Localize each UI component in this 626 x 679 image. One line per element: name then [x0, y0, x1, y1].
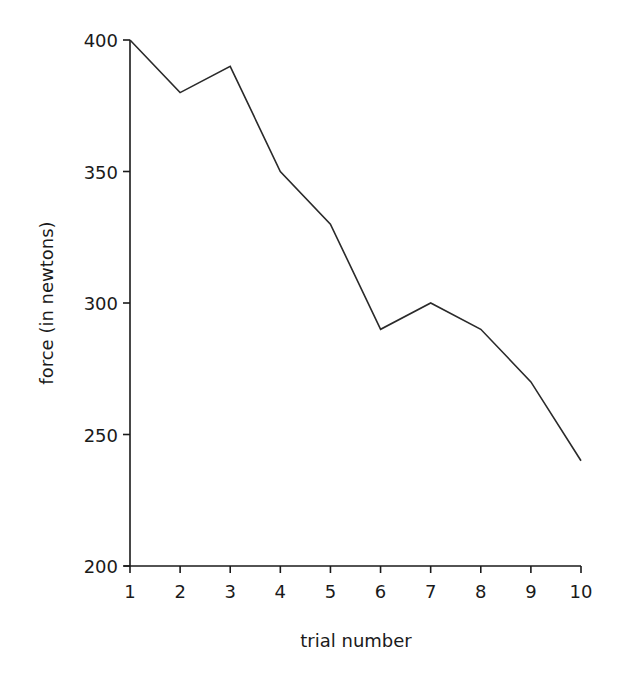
x-tick-label: 1 [124, 581, 135, 602]
force-series-line [130, 40, 581, 461]
x-axis-ticks: 12345678910 [124, 566, 592, 602]
x-tick-label: 7 [425, 581, 436, 602]
x-tick-label: 4 [275, 581, 286, 602]
x-tick-label: 6 [375, 581, 386, 602]
axes [124, 40, 581, 566]
x-tick-label: 5 [325, 581, 336, 602]
line-chart: 200250300350400 12345678910 trial number… [0, 0, 626, 679]
x-tick-label: 3 [224, 581, 235, 602]
y-tick-label: 350 [84, 162, 118, 183]
x-tick-label: 2 [174, 581, 185, 602]
x-tick-label: 10 [570, 581, 593, 602]
y-tick-label: 200 [84, 556, 118, 577]
y-tick-label: 300 [84, 293, 118, 314]
x-tick-label: 9 [525, 581, 536, 602]
y-tick-label: 250 [84, 425, 118, 446]
x-axis-label: trial number [300, 630, 412, 651]
y-tick-label: 400 [84, 30, 118, 51]
y-axis-ticks: 200250300350400 [84, 30, 130, 577]
y-axis-label: force (in newtons) [36, 221, 57, 384]
x-tick-label: 8 [475, 581, 486, 602]
